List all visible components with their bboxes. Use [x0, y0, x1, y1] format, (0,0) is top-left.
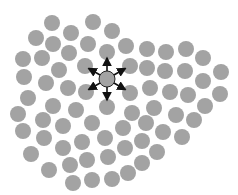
particle [195, 73, 211, 89]
particle [168, 107, 184, 123]
particle [63, 25, 79, 41]
central-particle-group [89, 58, 125, 100]
particle [157, 63, 173, 79]
particle [38, 75, 54, 91]
particle [15, 123, 31, 139]
particle [44, 15, 60, 31]
particle [79, 152, 95, 168]
particles-group [10, 14, 229, 191]
particle [212, 86, 228, 102]
particle [78, 84, 94, 100]
particle [124, 105, 140, 121]
particle [16, 69, 32, 85]
particle [117, 140, 133, 156]
particle [104, 23, 120, 39]
particle [99, 44, 115, 60]
particle [142, 80, 158, 96]
particle [139, 41, 155, 57]
arrow-icon [114, 69, 125, 76]
particle [99, 99, 115, 115]
particle [55, 118, 71, 134]
particle [134, 133, 150, 149]
particle [180, 87, 196, 103]
particle [68, 102, 84, 118]
particle [35, 112, 51, 128]
particle [146, 100, 162, 116]
particle [74, 134, 90, 150]
particle [23, 146, 39, 162]
particle [62, 157, 78, 173]
particle [139, 60, 155, 76]
particle [15, 51, 31, 67]
particle [55, 140, 71, 156]
particle [77, 58, 93, 74]
particle [20, 90, 36, 106]
particle [186, 112, 202, 128]
particle [28, 30, 44, 46]
particle [10, 106, 26, 122]
particle [45, 98, 61, 114]
particle [178, 41, 194, 57]
particle [36, 130, 52, 146]
particle [122, 85, 138, 101]
particle [134, 155, 150, 171]
particle [61, 45, 77, 61]
diagram-canvas [0, 0, 238, 195]
particle [118, 38, 134, 54]
particle [197, 98, 213, 114]
particle [41, 162, 57, 178]
particle [155, 124, 171, 140]
central-particle [99, 71, 115, 87]
particle [122, 58, 138, 74]
particle [158, 44, 174, 60]
particle [195, 50, 211, 66]
particle [97, 130, 113, 146]
particle [162, 84, 178, 100]
particle [213, 64, 229, 80]
particle [60, 80, 76, 96]
particle [120, 165, 136, 181]
particle [84, 115, 100, 131]
particle [84, 172, 100, 188]
particle [80, 36, 96, 52]
particle [177, 63, 193, 79]
particle [85, 14, 101, 30]
particle [149, 144, 165, 160]
particle [34, 50, 50, 66]
particle [45, 36, 61, 52]
particle [104, 171, 120, 187]
particle [65, 175, 81, 191]
particle [174, 129, 190, 145]
particle [138, 115, 154, 131]
particle [100, 149, 116, 165]
arrow-icon [114, 83, 125, 90]
particle [115, 120, 131, 136]
particle [51, 62, 67, 78]
particle-diagram [0, 0, 238, 195]
